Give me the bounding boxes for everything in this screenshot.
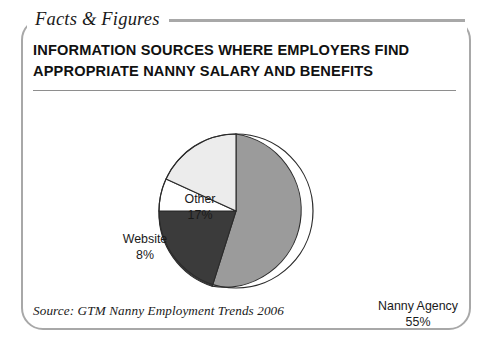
screenshot-root: Facts & Figures INFORMATION SOURCES WHER… <box>0 0 494 352</box>
kicker-rule <box>169 19 465 23</box>
pie-label-website-name: Website <box>123 232 168 246</box>
pie-label-nanny-agency-name: Nanny Agency <box>378 299 458 313</box>
kicker-label: Facts & Figures <box>35 9 169 30</box>
title-divider <box>33 90 456 91</box>
pie-chart-svg <box>25 94 467 292</box>
pie-label-other: Other 17% <box>164 192 236 224</box>
pie-label-website-value: 8% <box>109 248 181 264</box>
page-title: INFORMATION SOURCES WHERE EMPLOYERS FIND… <box>33 40 457 81</box>
pie-label-other-value: 17% <box>164 208 236 224</box>
pie-label-nanny-agency: Nanny Agency 55% <box>362 299 474 331</box>
pie-chart: Other 17% Website 8% Friend 20% Nanny Ag… <box>25 94 467 292</box>
pie-label-nanny-agency-value: 55% <box>362 315 474 331</box>
kicker-bar: Facts & Figures <box>27 6 467 32</box>
source-caption: Source: GTM Nanny Employment Trends 2006 <box>33 303 284 319</box>
pie-label-other-name: Other <box>185 192 216 206</box>
pie-label-website: Website 8% <box>109 232 181 264</box>
